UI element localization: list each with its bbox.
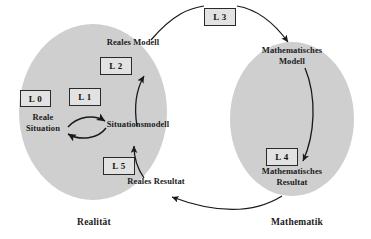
step-box-l0[interactable]: L 0	[20, 90, 51, 107]
arc-top-l3-left	[151, 6, 204, 40]
caption-mathematik: Mathematik	[256, 217, 338, 228]
arc-bottom-math-to-reality	[172, 196, 282, 210]
node-label-situationsmodell: Situationsmodell	[100, 119, 176, 130]
node-label-reales-resultat: Reales Resultat	[118, 176, 194, 187]
step-box-l3[interactable]: L 3	[204, 8, 236, 26]
node-label-mathematisches-resultat: Mathematisches Resultat	[248, 166, 336, 187]
node-label-mathematisches-modell: Mathematisches Modell	[248, 45, 336, 66]
arc-top-l3-right	[237, 6, 288, 42]
caption-realitaet: Realität	[58, 217, 130, 228]
modelling-cycle-diagram: Reales Modell Reale Situation Situations…	[0, 0, 371, 239]
step-box-l5[interactable]: L 5	[103, 157, 135, 175]
step-box-l4[interactable]: L 4	[266, 148, 298, 166]
node-label-reale-situation: Reale Situation	[17, 112, 69, 133]
node-label-reales-modell: Reales Modell	[93, 37, 173, 48]
step-box-l1[interactable]: L 1	[69, 88, 101, 106]
step-box-l2[interactable]: L 2	[100, 57, 132, 75]
